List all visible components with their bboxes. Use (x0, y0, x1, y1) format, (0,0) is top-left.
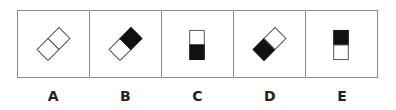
diagonal-domino-top-filled-icon (234, 11, 305, 77)
option-label-b: B (89, 88, 161, 104)
vertical-domino-bottom-filled-icon (162, 11, 233, 77)
option-c-cell[interactable] (162, 11, 234, 77)
option-a-cell[interactable] (18, 11, 90, 77)
answer-options-strip (17, 10, 378, 78)
option-label-c: C (161, 88, 233, 104)
diagonal-domino-bottom-filled-icon (90, 11, 161, 77)
option-label-e: E (306, 88, 378, 104)
option-label-d: D (234, 88, 306, 104)
option-labels: A B C D E (17, 88, 378, 104)
option-e-cell[interactable] (306, 11, 377, 77)
diagonal-domino-icon (18, 11, 89, 77)
option-label-a: A (17, 88, 89, 104)
option-d-cell[interactable] (234, 11, 306, 77)
option-b-cell[interactable] (90, 11, 162, 77)
vertical-domino-top-filled-icon (306, 11, 377, 77)
